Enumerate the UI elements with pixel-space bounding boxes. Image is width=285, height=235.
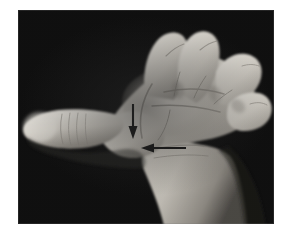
thumb-tip-shading: [23, 112, 57, 142]
hand-photograph: [18, 10, 274, 224]
photograph-plate: [18, 10, 274, 224]
figure-container: Black and white photograph of a hand wit…: [0, 0, 285, 235]
